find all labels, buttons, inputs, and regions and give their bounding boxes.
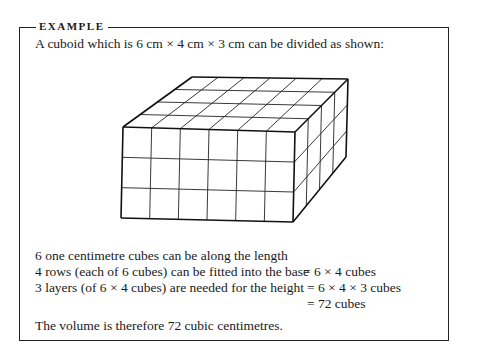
cuboid-diagram bbox=[0, 0, 477, 356]
conclusion-text: The volume is therefore 72 cubic centime… bbox=[35, 318, 283, 334]
equation-base: = 6 × 4 cubes bbox=[303, 264, 376, 280]
equation-total: = 72 cubes bbox=[307, 296, 366, 312]
line-length: 6 one centimetre cubes can be along the … bbox=[35, 248, 288, 264]
line-height: 3 layers (of 6 × 4 cubes) are needed for… bbox=[35, 280, 304, 296]
line-base: 4 rows (each of 6 cubes) can be fitted i… bbox=[35, 264, 309, 280]
equation-layers: = 6 × 4 × 3 cubes bbox=[307, 280, 401, 296]
